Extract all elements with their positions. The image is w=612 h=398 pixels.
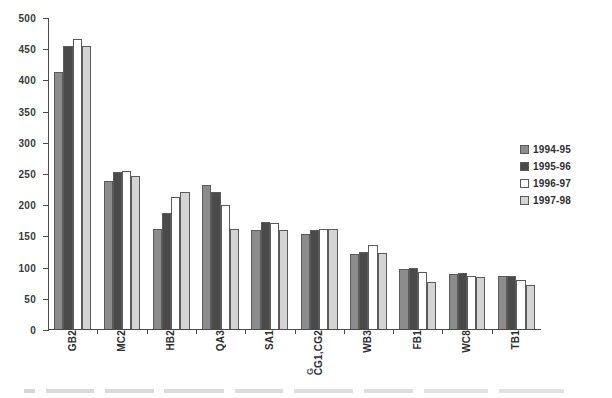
bar-group [301,229,338,329]
x-axis-category-label: MC2 [116,330,127,352]
bar-group [251,222,288,329]
y-axis-tick-label: 50 [24,293,36,304]
x-axis-tick [196,329,197,334]
bar [82,46,91,329]
bar [328,229,337,329]
bar [310,230,319,329]
y-axis-tick: 300 [43,143,49,144]
bar [359,252,368,329]
bar [516,280,525,329]
bar-group [498,276,535,329]
bar-group [399,268,436,329]
bar [202,185,211,329]
x-axis-category-label: QA3 [215,330,226,351]
legend-label: 1995-96 [533,161,571,172]
legend-label: 1994-95 [533,144,571,155]
legend-item: 1995-96 [520,158,571,175]
x-axis-category-label: WC8 [461,330,472,353]
x-axis-category-label: GB2 [67,330,78,351]
x-axis-category-label: HB2 [165,330,176,351]
y-axis-tick-label: 350 [18,106,36,117]
x-axis-tick [442,329,443,334]
x-axis-tick [295,329,296,334]
x-axis-tick [147,329,148,334]
bar [279,230,288,329]
y-axis-tick-label: 0 [30,325,36,336]
bar [113,172,122,329]
x-axis-category-label: FB1 [412,330,423,350]
bar [449,274,458,329]
x-axis-tick [393,329,394,334]
legend-color-swatch [520,196,529,205]
legend-label: 1997-98 [533,195,571,206]
y-axis-tick-label: 500 [18,13,36,24]
legend-color-swatch [520,162,529,171]
bar [270,223,279,329]
bar [526,285,535,329]
legend: 1994-951995-961996-971997-98 [520,141,571,209]
bar [409,268,418,329]
y-axis-tick: 350 [43,112,49,113]
y-axis-tick: 50 [43,299,49,300]
y-axis-tick: 500 [43,18,49,19]
plot-area: 050100150200250300350400450500 GB2MC2HB2… [48,18,541,330]
y-axis-tick-label: 450 [18,44,36,55]
y-axis-tick: 200 [43,205,49,206]
bar-group [104,171,141,329]
bar [162,213,171,329]
x-axis-tick [492,329,493,334]
y-axis-tick-label: 250 [18,169,36,180]
bar [319,229,328,329]
legend-item: 1997-98 [520,192,571,209]
bar [230,229,239,329]
bar [122,171,131,329]
x-axis-category-label: TB1 [510,330,521,350]
caption-cutoff-artifact [24,389,564,393]
bar [180,192,189,329]
legend-item: 1994-95 [520,141,571,158]
y-axis-tick: 150 [43,236,49,237]
y-axis-tick-label: 100 [18,262,36,273]
x-axis-category-label: SA1 [264,330,275,350]
y-axis-tick-label: 200 [18,200,36,211]
bar-group [350,245,387,329]
bar [507,276,516,329]
bar-group [153,192,190,329]
x-axis-tick [245,329,246,334]
legend-label: 1996-97 [533,178,571,189]
bar [251,230,260,329]
bar [261,222,270,329]
bar [131,176,140,329]
x-axis-category-label: WB3 [362,330,373,353]
legend-item: 1996-97 [520,175,571,192]
bar [221,205,230,329]
y-axis-tick: 400 [43,80,49,81]
bar [467,276,476,329]
bar [153,229,162,329]
bar [171,197,180,329]
y-axis-tick: 250 [43,174,49,175]
bar [378,253,387,329]
bar [368,245,377,329]
legend-color-swatch [520,179,529,188]
y-axis-tick: 0 [43,330,49,331]
bar-group [449,273,486,329]
x-axis-tick [344,329,345,334]
bar [54,72,63,329]
bar [301,234,310,329]
bar [73,39,82,329]
bar [418,272,427,329]
bar [104,181,113,330]
bar [427,282,436,329]
bar [498,276,507,329]
legend-color-swatch [520,145,529,154]
y-axis-tick: 450 [43,49,49,50]
bar [350,254,359,329]
bar [63,46,72,329]
y-axis-tick: 100 [43,268,49,269]
bar [399,269,408,329]
bar [458,273,467,329]
y-axis-tick-label: 400 [18,75,36,86]
bar-chart: 050100150200250300350400450500 GB2MC2HB2… [0,0,612,398]
bar-group [202,185,239,329]
